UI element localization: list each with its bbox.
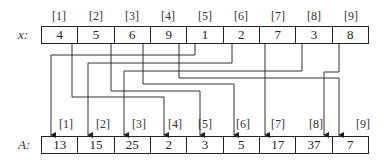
a-cell: 5 <box>224 137 260 153</box>
a-array-row: 13 15 25 2 3 5 17 37 7 <box>41 136 369 154</box>
a-index: [9] <box>345 117 381 132</box>
a-index: [5] <box>187 117 223 132</box>
a-cell: 2 <box>151 137 187 153</box>
a-index: [7] <box>260 117 296 132</box>
a-index: [6] <box>225 117 261 132</box>
a-index: [2] <box>85 117 121 132</box>
a-index: [1] <box>48 117 84 132</box>
a-cell: 37 <box>296 137 332 153</box>
a-cell: 7 <box>333 137 368 153</box>
a-cell: 25 <box>115 137 151 153</box>
a-cell: 15 <box>78 137 114 153</box>
a-cell: 17 <box>260 137 296 153</box>
a-index: [3] <box>121 117 157 132</box>
a-cell: 3 <box>187 137 223 153</box>
a-cell: 13 <box>42 137 78 153</box>
a-array-label: A: <box>18 137 30 153</box>
a-index: [8] <box>298 117 334 132</box>
index-mapping-diagram: x: [1] [2] [3] [4] [5] [6] [7] [8] [9] 4… <box>0 0 390 164</box>
